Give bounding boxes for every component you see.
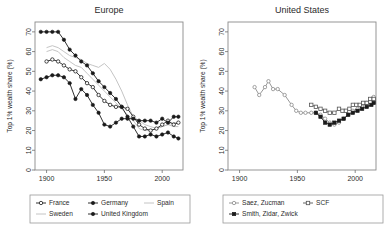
data-point [91, 201, 94, 204]
data-point [351, 103, 354, 106]
y-tick-label: 10 [25, 146, 32, 154]
y-tick-label: 60 [25, 48, 32, 56]
data-point [310, 103, 313, 106]
data-point [365, 101, 368, 104]
data-point [51, 74, 54, 77]
data-point [114, 121, 117, 124]
data-point [306, 201, 309, 204]
data-point [80, 76, 83, 79]
y-tick-label: 30 [25, 107, 32, 115]
data-point [372, 97, 375, 100]
series-sweden [47, 50, 179, 131]
data-point [56, 74, 59, 77]
data-point [160, 133, 163, 136]
data-point [155, 121, 158, 124]
y-tick-label: 70 [218, 28, 225, 36]
data-point [149, 119, 152, 122]
data-point [232, 201, 235, 204]
data-point [132, 117, 135, 120]
legend-label: Smith, Zidar, Zwick [242, 210, 298, 217]
x-tick-label: 2000 [154, 175, 170, 182]
data-point [74, 97, 77, 100]
data-point [56, 60, 59, 63]
data-point [108, 91, 111, 94]
data-point [276, 87, 279, 90]
data-point [232, 212, 235, 215]
data-point [355, 103, 358, 106]
data-point [160, 123, 163, 126]
data-point [166, 131, 169, 134]
data-point [328, 111, 331, 114]
data-point [166, 121, 169, 124]
data-point [369, 97, 372, 100]
data-point [323, 117, 326, 120]
legend-label: United Kingdom [101, 210, 148, 218]
series-line [41, 75, 179, 126]
data-point [114, 97, 117, 100]
data-point [137, 135, 140, 138]
data-point [267, 80, 270, 83]
data-point [149, 129, 152, 132]
data-point [271, 87, 274, 90]
data-point [319, 115, 322, 118]
data-point [80, 87, 83, 90]
data-point [177, 137, 180, 140]
data-point [62, 64, 65, 67]
data-point [365, 105, 368, 108]
data-point [85, 93, 88, 96]
panel-europe: Europe010203040506070Top 1% wealth share… [0, 0, 192, 237]
data-point [114, 105, 117, 108]
data-point [337, 107, 340, 110]
data-point [62, 76, 65, 79]
data-point [68, 68, 71, 71]
data-point [39, 78, 42, 81]
data-point [143, 119, 146, 122]
data-point [45, 60, 48, 63]
data-point [304, 111, 307, 114]
panel-united-states: United States010203040506070Top 1% wealt… [193, 0, 385, 237]
data-point [319, 107, 322, 110]
data-point [342, 117, 345, 120]
data-point [126, 107, 129, 110]
data-point [74, 70, 77, 73]
series-united-kingdom [39, 30, 180, 140]
figure-root: Europe010203040506070Top 1% wealth share… [0, 0, 385, 237]
y-tick-label: 30 [218, 107, 225, 115]
data-point [299, 111, 302, 114]
x-tick-label: 1900 [232, 175, 248, 182]
data-point [97, 111, 100, 114]
data-point [314, 111, 317, 114]
data-point [351, 111, 354, 114]
data-point [341, 109, 344, 112]
y-tick-label: 60 [218, 48, 225, 56]
y-axis-label: Top 1% wealth share (%) [6, 59, 14, 132]
data-point [172, 135, 175, 138]
y-tick-label: 10 [218, 146, 225, 154]
europe-chart-svg: Europe010203040506070Top 1% wealth share… [0, 0, 192, 237]
data-point [143, 127, 146, 130]
data-point [362, 101, 365, 104]
data-point [137, 123, 140, 126]
data-point [283, 93, 286, 96]
data-point [97, 80, 100, 83]
data-point [51, 30, 54, 33]
data-point [333, 121, 336, 124]
data-point [85, 81, 88, 84]
data-point [137, 119, 140, 122]
data-point [91, 212, 94, 215]
y-tick-label: 70 [25, 28, 32, 36]
y-tick-label: 40 [218, 87, 225, 95]
data-point [120, 105, 123, 108]
data-point [91, 72, 94, 75]
data-point [51, 58, 54, 61]
data-point [45, 30, 48, 33]
data-point [358, 103, 361, 106]
series-line [47, 46, 179, 129]
legend-label: SCF [316, 199, 329, 206]
data-point [172, 115, 175, 118]
data-point [108, 103, 111, 106]
data-point [328, 123, 331, 126]
data-point [333, 111, 336, 114]
series-smith-zidar-zwick [314, 101, 375, 126]
y-tick-label: 20 [25, 127, 32, 135]
